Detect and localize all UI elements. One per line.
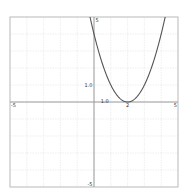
- y-min-label: -5: [88, 181, 93, 187]
- x-unit-label: 1.0: [101, 98, 109, 104]
- y-unit-label: 1.0: [85, 82, 93, 88]
- x-max-label: 5: [174, 102, 177, 108]
- function-plot: -5 5 5 -5 1.0 1.0 2: [0, 0, 184, 194]
- y-max-label: 5: [96, 17, 99, 23]
- vertex-x-label: 2: [126, 102, 129, 108]
- x-min-label: -5: [11, 102, 16, 108]
